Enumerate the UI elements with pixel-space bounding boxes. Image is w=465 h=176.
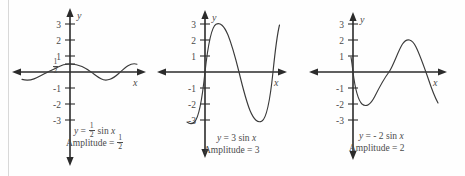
amplitude-value: 2 [400, 143, 405, 153]
equation-variable-y: y [217, 133, 221, 143]
x-axis-label: x [432, 77, 438, 88]
x-axis-arrow-right [438, 68, 447, 75]
caption-equation-neg2: y = - 2 sin x [359, 130, 404, 142]
equation-coefficient: 3 [231, 133, 236, 143]
x-axis-arrow-right [278, 68, 287, 75]
y-axis-label: y [359, 14, 365, 25]
equation-variable-x: x [252, 133, 256, 143]
equation-coefficient: - 2 [373, 131, 383, 141]
y-axis-arrow-up [66, 8, 73, 17]
amplitude-value: 3 [255, 145, 260, 155]
amplitude-label: Amplitude = [66, 138, 114, 148]
x-axis-arrow-left [157, 68, 166, 75]
y-tick-label-neg1: -1 [188, 84, 196, 94]
amplitude-value-denominator: 2 [117, 143, 123, 151]
graph-panel-3-sin: 3 2 1 -1 -2 -3 y x y = 3 sin x Amplitude… [155, 0, 305, 176]
caption-amplitude-half: Amplitude = 1 2 [66, 134, 124, 152]
x-axis-arrow-right [137, 68, 146, 75]
graph-panel-half-sin: 3 2 1 -1 -2 -3 y x 1 2 y = 1 2 [0, 0, 155, 176]
y-tick-label-half: 1 2 [52, 58, 59, 76]
y-axis-arrow-down [66, 157, 73, 166]
equation-variable-x: x [399, 131, 403, 141]
y-tick-label-neg3: -3 [53, 116, 61, 126]
y-axis-label: y [76, 10, 82, 21]
x-axis-arrow-left [309, 68, 318, 75]
y-tick-label-3: 3 [191, 20, 196, 30]
x-axis-arrow-left [12, 68, 21, 75]
equation-equals-sign: = [366, 131, 371, 141]
equation-equals-sign: = [224, 133, 229, 143]
y-axis-label: y [211, 12, 217, 23]
y-tick-label-3: 3 [339, 20, 344, 30]
y-tick-label-3: 3 [56, 20, 61, 30]
x-axis-label: x [273, 77, 279, 88]
y-tick-label-neg2: -2 [336, 100, 344, 110]
sine-amplitude-figure: 3 2 1 -1 -2 -3 y x 1 2 y = 1 2 [0, 0, 465, 176]
y-tick-label-neg1: -1 [53, 84, 61, 94]
y-tick-label-neg1: -1 [336, 84, 344, 94]
amplitude-value-fraction: 1 2 [117, 134, 123, 152]
y-tick-label-2: 2 [339, 36, 344, 46]
equation-variable-y: y [359, 131, 363, 141]
amplitude-label: Amplitude = [204, 145, 252, 155]
equation-sin-token: sin [238, 133, 249, 143]
x-axis-label: x [132, 77, 138, 88]
y-tick-label-1: 1 [339, 52, 344, 62]
y-tick-label-2: 2 [56, 36, 61, 46]
graph-panel-neg2-sin: 3 2 1 -1 -2 -3 y x y = - 2 sin x Amplitu… [305, 0, 465, 176]
sine-curve-3 [187, 24, 280, 124]
y-axis-arrow-up [349, 12, 356, 21]
caption-amplitude-neg2: Amplitude = 2 [349, 142, 405, 154]
y-axis-arrow-up [201, 10, 208, 19]
y-tick-label-neg2: -2 [53, 100, 61, 110]
caption-equation-3: y = 3 sin x [217, 132, 256, 144]
caption-amplitude-3: Amplitude = 3 [204, 144, 260, 156]
equation-sin-token: sin [386, 131, 397, 141]
y-tick-label-neg2: -2 [188, 100, 196, 110]
amplitude-label: Amplitude = [349, 143, 397, 153]
y-tick-label-1: 1 [191, 52, 196, 62]
y-tick-label-neg3: -3 [336, 116, 344, 126]
y-tick-label-2: 2 [191, 36, 196, 46]
y-tick-half-denominator: 2 [53, 67, 59, 75]
